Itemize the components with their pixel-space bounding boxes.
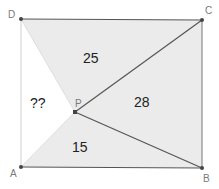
point-p-marker bbox=[73, 110, 77, 114]
area-label-apd: ?? bbox=[30, 95, 46, 111]
vertex-label-a: A bbox=[10, 168, 17, 179]
vertex-label-b: B bbox=[203, 173, 210, 184]
vertex-a-point bbox=[19, 165, 23, 169]
vertex-label-p: P bbox=[75, 98, 82, 109]
vertex-b-point bbox=[200, 166, 204, 170]
area-label-pcb: 28 bbox=[134, 94, 150, 110]
area-label-dpc: 25 bbox=[83, 50, 99, 66]
vertex-c-point bbox=[200, 18, 204, 22]
vertex-label-c: C bbox=[205, 5, 212, 16]
area-label-apb: 15 bbox=[72, 139, 88, 155]
rectangle-diagram: D C A B P 25 28 15 ?? bbox=[0, 0, 219, 189]
vertex-d-point bbox=[19, 17, 23, 21]
vertex-label-d: D bbox=[8, 9, 15, 20]
